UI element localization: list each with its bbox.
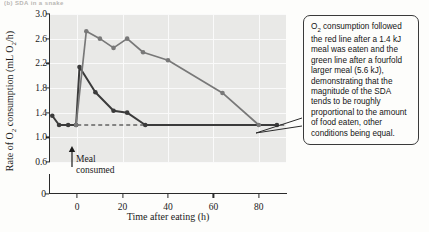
callout-pointer-icon [0,0,429,232]
figure-root: (b) SDA in a snake Rate of O2 consumptio… [0,0,429,232]
